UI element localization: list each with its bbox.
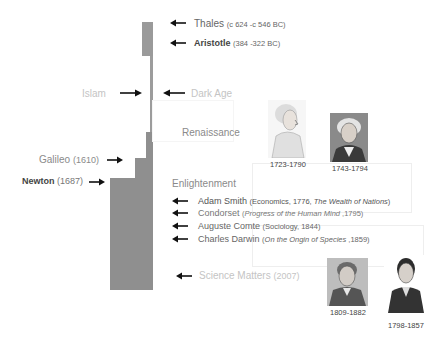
bar-segment-ancient [142,22,153,56]
portrait-comte [384,255,428,317]
arrow-left-icon [170,19,186,27]
list-item-condorset: Condorset (Progress of the Human Mind ,1… [198,208,363,219]
label-enlightenment: Enlightenment [172,178,236,189]
list-item-auguste-comte: Auguste Comte (Sociology, 1844) [198,221,320,232]
label-aristotle: Aristotle (384 -322 BC) [194,38,280,49]
portrait-darwin [327,258,368,306]
portrait-adam-smith [268,100,306,158]
arrow-left-icon [172,222,188,230]
arrow-right-icon [89,178,105,186]
arrow-left-icon [172,235,188,243]
caption-darwin-years: 1809-1882 [330,308,366,317]
label-dark-age: Dark Age [191,88,232,99]
arrow-left-icon [172,197,188,205]
label-science-matters: Science Matters (2007) [199,270,300,282]
list-item-charles-darwin: Charles Darwin (On the Ongin of Species … [198,234,370,245]
bar-segment-newton [110,178,153,290]
label-newton: Newton (1687) [22,176,83,187]
label-galileo: Galileo (1610) [39,154,99,166]
caption-comte-years: 1798-1857 [388,321,424,330]
list-item-adam-smith: Adam Smith (Economics, 1776, The Wealth … [198,196,390,207]
label-islam: Islam [82,88,106,99]
caption-condorcet-years: 1743-1794 [332,164,368,173]
arrow-left-icon [172,209,188,217]
arrow-right-icon [107,156,123,164]
arrow-left-icon [170,39,186,47]
portrait-condorcet [330,113,368,162]
arrow-left-icon [163,89,185,97]
label-renaissance: Renaissance [182,127,240,138]
caption-smith-years: 1723-1790 [270,160,306,169]
bar-segment-galileo [135,158,153,179]
arrow-left-icon [176,272,192,280]
label-thales: Thales (c 624 -c 546 BC) [194,18,286,30]
arrow-right-icon [120,89,142,97]
